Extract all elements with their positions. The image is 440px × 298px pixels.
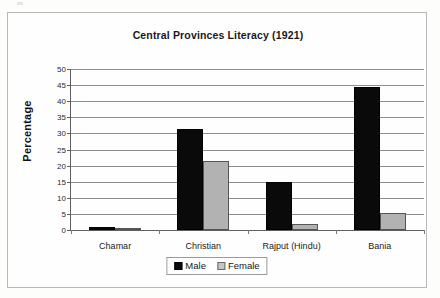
bar-male [89, 227, 115, 230]
bar-group [336, 69, 424, 230]
x-tick-mark [424, 230, 425, 234]
bar-group [71, 69, 159, 230]
x-category-label: Christian [186, 241, 222, 251]
x-tick-mark [336, 230, 337, 234]
legend-entry: Female [217, 260, 260, 271]
legend-swatch-female [217, 262, 225, 270]
bar-male [354, 87, 380, 230]
bar-female [203, 161, 229, 230]
bar-male [177, 129, 203, 230]
x-tick-mark [248, 230, 249, 234]
bar-female [292, 224, 318, 230]
x-category-label: Bania [368, 241, 391, 251]
legend-entry: Male [174, 260, 206, 271]
y-tick-label: 25 [57, 145, 66, 154]
y-tick-label: 5 [62, 209, 66, 218]
y-tick-label: 30 [57, 129, 66, 138]
y-axis-label: Percentage [21, 86, 33, 176]
y-tick-mark [67, 69, 71, 70]
bar-group [248, 69, 336, 230]
chart-title: Central Provinces Literacy (1921) [8, 29, 428, 41]
x-category-label: Rajput (Hindu) [263, 241, 321, 251]
legend-label: Male [185, 260, 206, 271]
bar-female [380, 213, 406, 230]
chart-frame: Central Provinces Literacy (1921) Percen… [7, 12, 427, 288]
y-tick-label: 20 [57, 161, 66, 170]
x-tick-mark [159, 230, 160, 234]
bar-male [266, 182, 292, 230]
legend-swatch-male [174, 262, 182, 270]
y-tick-label: 45 [57, 81, 66, 90]
y-tick-label: 15 [57, 177, 66, 186]
y-tick-label: 35 [57, 113, 66, 122]
y-tick-label: 50 [57, 65, 66, 74]
bar-group [159, 69, 247, 230]
x-tick-mark [71, 230, 72, 234]
legend-label: Female [228, 260, 260, 271]
chart-legend: MaleFemale [166, 257, 267, 275]
x-category-label: Chamar [99, 241, 131, 251]
scan-artifact [17, 2, 23, 5]
y-tick-label: 40 [57, 97, 66, 106]
y-tick-label: 0 [62, 226, 66, 235]
plot-area: 05101520253035404550 ChamarChristianRajp… [70, 69, 424, 231]
bar-female [115, 228, 141, 230]
y-tick-label: 10 [57, 193, 66, 202]
